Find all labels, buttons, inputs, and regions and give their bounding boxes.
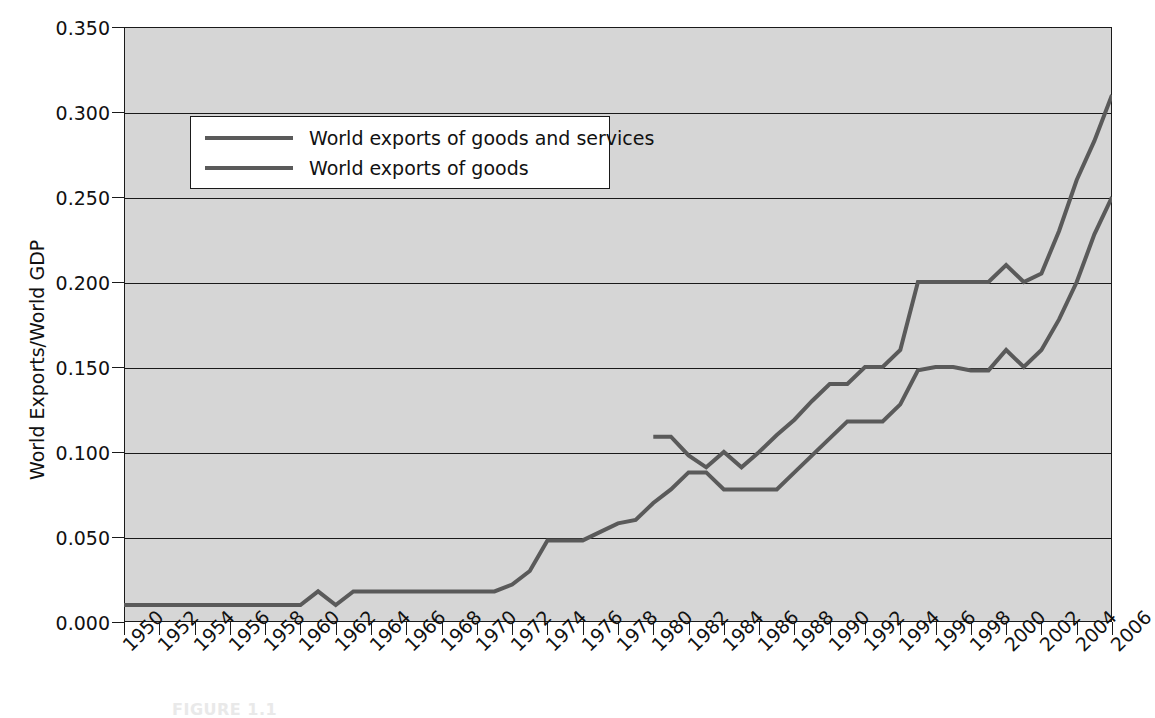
legend-label: World exports of goods and services <box>309 127 654 149</box>
series-line-1 <box>124 197 1112 605</box>
figure-caption: FIGURE 1.1 <box>172 700 277 718</box>
legend-entry-1: World exports of goods <box>205 155 529 181</box>
legend-line-swatch <box>205 136 293 140</box>
chart-legend: World exports of goods and services Worl… <box>190 116 610 189</box>
series-line-0 <box>653 95 1112 467</box>
legend-entry-0: World exports of goods and services <box>205 125 654 151</box>
legend-line-swatch <box>205 166 293 170</box>
legend-label: World exports of goods <box>309 157 529 179</box>
